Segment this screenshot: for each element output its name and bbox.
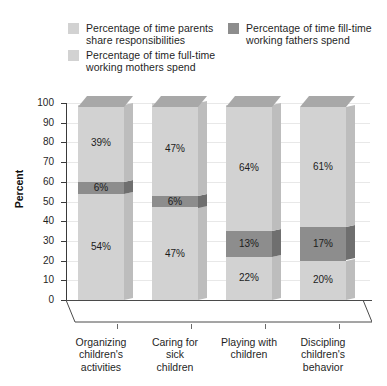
legend-item-fathers: Percentage of time fill-time working fat… [228,22,383,47]
floor-front-edge [66,300,372,301]
bar-column: 47%6%47% [152,103,198,300]
bar-segment-label: 6% [78,183,124,193]
bar-top-face [300,93,355,103]
y-tick-label: 80 [28,137,54,147]
y-tick-label: 50 [28,197,54,207]
y-tick-mark [61,261,66,262]
y-axis-line [66,103,67,301]
bar-segment-label: 20% [300,275,346,285]
y-tick-mark [61,241,66,242]
bar-segment-side [198,205,207,300]
x-tick-mark [191,324,192,329]
y-tick-mark [61,221,66,222]
y-tick-mark [61,123,66,124]
bar-segment-side [198,194,207,208]
y-tick-label: 40 [28,216,54,226]
legend-label-shared: Percentage of time parents share respons… [86,22,213,47]
bar-column: 20%17%61% [300,103,346,300]
bar-segment-label: 64% [226,163,272,173]
bar-segment-label: 61% [300,162,346,172]
legend-item-mothers: Percentage of time full-time working mot… [68,49,218,74]
x-tick-mark [339,324,340,329]
y-tick-label: 90 [28,118,54,128]
legend-label-mothers: Percentage of time full-time working mot… [86,49,215,74]
y-tick-label: 100 [28,98,54,108]
bar-segment-side [346,225,355,261]
bar-top-face [78,93,133,103]
bar-segment-side [272,255,281,300]
stacked-bar-chart: Percentage of time parents share respons… [0,0,387,386]
y-tick-mark [61,202,66,203]
y-tick-label: 60 [28,177,54,187]
chart-floor [66,300,372,324]
chart-legend: Percentage of time parents share respons… [68,22,380,82]
bar-top-face [152,93,207,103]
y-tick-label: 20 [28,256,54,266]
bar-column: 54%6%39% [78,103,124,300]
bar-segment-side [124,192,133,300]
x-tick-mark [265,324,266,329]
bar-segment-label: 17% [300,239,346,249]
bar-segment-label: 22% [226,273,272,283]
bar-segment-label: 47% [152,249,198,259]
bar-segment-label: 13% [226,239,272,249]
bar-segment-side [346,259,355,300]
y-tick-label: 70 [28,157,54,167]
x-tick-mark [117,324,118,329]
floor-surface-icon [66,300,372,323]
bar-segment-label: 54% [78,242,124,252]
y-tick-label: 10 [28,275,54,285]
legend-swatch-mothers [68,50,79,61]
y-tick-mark [61,103,66,104]
bar-segment-side [346,105,355,227]
y-tick-mark [61,142,66,143]
bar-segment-side [272,103,281,231]
bar-segment-side [124,103,133,182]
bar-top-face [226,93,281,103]
y-tick-label: 30 [28,236,54,246]
y-tick-label: 0 [28,295,54,305]
x-axis-category-label: Discipling children's behavior [279,336,367,373]
legend-label-fathers: Percentage of time fill-time working fat… [246,22,372,47]
y-tick-mark [61,280,66,281]
bar-segment-side [124,180,133,194]
legend-item-shared: Percentage of time parents share respons… [68,22,218,47]
bar-segment-label: 39% [78,138,124,148]
y-tick-mark [61,162,66,163]
bar-segment-side [198,101,207,196]
bar-column: 22%13%64% [226,103,272,300]
bar-segment-label: 6% [152,197,198,207]
bar-segment-label: 47% [152,144,198,154]
bar-segment-side [272,229,281,257]
legend-swatch-fathers [228,23,239,34]
y-tick-mark [61,182,66,183]
legend-swatch-shared [68,23,79,34]
y-axis-title: Percent [13,154,25,224]
